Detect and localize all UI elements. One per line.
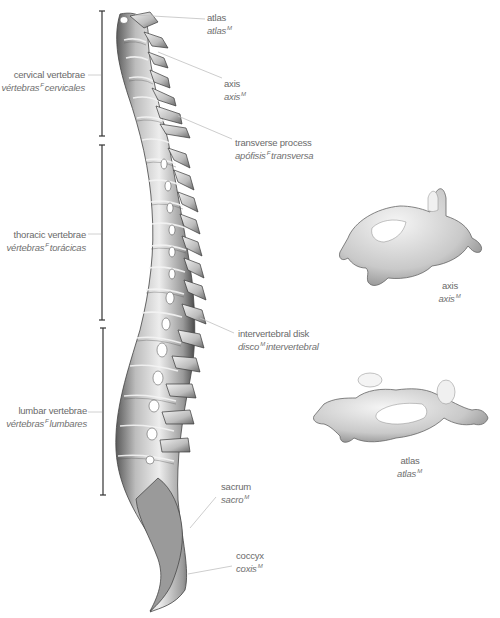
label-es: vértebrasFcervicales xyxy=(1,80,85,93)
caption-en: atlas xyxy=(390,455,430,466)
lumbar-bracket xyxy=(100,328,106,495)
label-coccyx: coccyx coxisM xyxy=(236,550,264,574)
label-lumbar-vertebrae: lumbar vertebrae vértebrasFlumbares xyxy=(6,405,87,429)
label-en: coccyx xyxy=(236,550,264,561)
label-es: discoMintervertebral xyxy=(238,339,319,352)
label-es: vértebrasFtorácicas xyxy=(7,240,87,253)
label-es: apófisisFtransversa xyxy=(235,148,313,161)
thoracic-bracket xyxy=(99,145,105,320)
label-intervertebral-disk: intervertebral disk discoMintervertebral xyxy=(238,328,319,352)
region-brackets xyxy=(99,11,106,495)
cervical-bracket xyxy=(99,11,105,136)
label-atlas: atlas atlasM xyxy=(207,12,233,36)
label-es: atlasM xyxy=(207,23,233,36)
label-es: coxisM xyxy=(236,561,264,574)
caption-axis-detail: axis axisM xyxy=(430,280,470,304)
label-transverse-process: transverse process apófisisFtransversa xyxy=(235,137,313,161)
caption-es: axisM xyxy=(430,291,470,304)
label-es: axisM xyxy=(224,89,247,102)
label-en: atlas xyxy=(207,12,233,23)
caption-atlas-detail: atlas atlasM xyxy=(390,455,430,479)
label-en: thoracic vertebrae xyxy=(7,229,87,240)
caption-en: axis xyxy=(430,280,470,291)
label-sacrum: sacrum sacroM xyxy=(221,481,251,505)
label-en: axis xyxy=(224,78,247,89)
atlas-detail-illustration xyxy=(313,373,488,442)
label-axis: axis axisM xyxy=(224,78,247,102)
label-thoracic-vertebrae: thoracic vertebrae vértebrasFtorácicas xyxy=(7,229,87,253)
label-en: intervertebral disk xyxy=(238,328,319,339)
caption-es: atlasM xyxy=(390,466,430,479)
label-en: transverse process xyxy=(235,137,313,148)
label-en: lumbar vertebrae xyxy=(6,405,87,416)
label-en: sacrum xyxy=(221,481,251,492)
label-es: vértebrasFlumbares xyxy=(6,416,87,429)
label-cervical-vertebrae: cervical vertebrae vértebrasFcervicales xyxy=(1,69,85,93)
axis-detail-illustration xyxy=(339,189,481,286)
label-en: cervical vertebrae xyxy=(1,69,85,80)
label-es: sacroM xyxy=(221,492,251,505)
